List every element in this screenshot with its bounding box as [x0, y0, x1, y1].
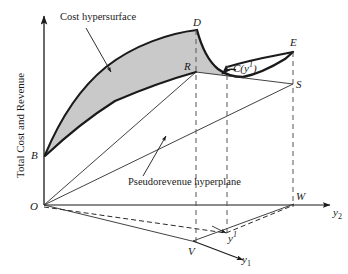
base-edge-V-W: [193, 204, 294, 241]
y-axis-title: Total Cost and Revenue: [14, 73, 26, 178]
pseudorevenue-hyperplane-label: Pseudorevenue hyperplane: [128, 176, 241, 187]
point-label-r: R: [184, 60, 191, 72]
axis-label-y2: y2: [333, 206, 342, 221]
figure-container: Total Cost and Revenue Cost hypersurface…: [0, 0, 348, 274]
point-label-w: W: [296, 190, 305, 202]
point-label-e: E: [290, 36, 297, 48]
cost-hypersurface-label: Cost hypersurface: [60, 11, 136, 22]
point-label-b: B: [31, 149, 38, 161]
leader-pseudorevenue-hyperplane: [143, 136, 166, 176]
point-label-o: O: [30, 200, 38, 212]
cost-function-label-close: ): [253, 62, 257, 74]
base-edge-O-V: [44, 205, 196, 242]
point-label-y-superscript-1: y1: [228, 230, 237, 244]
point-label-y-superscript: 1: [233, 230, 237, 239]
point-label-d: D: [193, 16, 201, 28]
base-dashed-y1point-W: [226, 205, 294, 233]
axis-label-y2-subscript: 2: [338, 212, 342, 221]
leader-cost-hypersurface: [86, 28, 111, 72]
axis-label-y1-subscript: 1: [247, 259, 251, 268]
cost-function-label: C(y1): [233, 60, 257, 74]
point-label-v: V: [188, 245, 195, 257]
cost-function-label-base: C(y: [233, 62, 249, 74]
cost-hypersurface-band: [45, 30, 243, 156]
y1-axis: [193, 241, 243, 260]
axis-label-y1: y1: [242, 253, 251, 268]
base-dashed-O-y1point: [44, 207, 226, 233]
point-label-s: S: [296, 78, 302, 90]
